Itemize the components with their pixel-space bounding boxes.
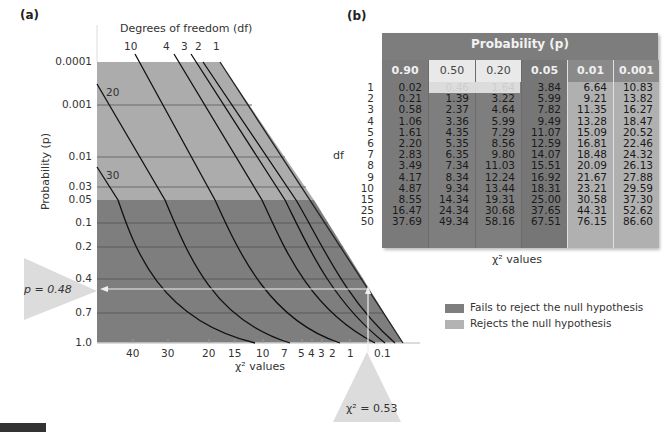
- table-x-label: χ² values: [492, 253, 542, 266]
- col-values: 1.64 3.22 4.64 5.99 7.29 8.56 9.80 11.03…: [476, 82, 521, 228]
- col-header: 0.01: [568, 60, 613, 82]
- y-axis-label: Probability (p): [39, 117, 52, 227]
- x-tick: 30: [161, 347, 174, 359]
- x-tick: 0.1: [374, 347, 391, 359]
- y-tick: 0.001: [32, 98, 92, 110]
- df-label-30: 30: [106, 169, 119, 181]
- x-tick: 4: [308, 347, 315, 359]
- x-axis-label: χ² values: [235, 360, 285, 373]
- chi-marker-label: χ² = 0.53: [346, 402, 397, 415]
- legend-swatch-fail: [445, 304, 464, 313]
- df-row-header: df: [333, 149, 344, 162]
- row-labels: 1 2 3 4 5 6 7 8 9 10 15 25 50: [352, 82, 374, 228]
- col-header: 0.05: [522, 60, 567, 82]
- col-header: 0.90: [382, 60, 428, 82]
- y-tick: 1.0: [32, 336, 92, 348]
- y-tick: 0.0001: [32, 55, 92, 67]
- figure-tab: [0, 423, 46, 432]
- col-header: 0.20: [476, 60, 521, 82]
- x-tick: 20: [202, 347, 215, 359]
- col-header: 0.001: [614, 60, 659, 82]
- df-label-20: 20: [106, 86, 119, 98]
- x-tick: 10: [256, 347, 269, 359]
- col-values: 3.84 5.99 7.82 9.49 11.07 12.59 14.07 15…: [522, 82, 567, 228]
- legend-fail: Fails to reject the null hypothesis: [445, 301, 643, 313]
- col-values: 10.83 13.82 16.27 18.47 20.52 22.46 24.3…: [614, 82, 659, 228]
- p-marker-label: p = 0.48: [24, 283, 72, 296]
- df-label-4: 4: [163, 40, 170, 52]
- x-tick: 7: [281, 347, 288, 359]
- y-tick: 0.7: [32, 306, 92, 318]
- legend-reject: Rejects the null hypothesis: [445, 317, 611, 329]
- df-label-1: 1: [213, 40, 220, 52]
- x-tick: 1: [347, 347, 354, 359]
- df-label-3: 3: [181, 40, 188, 52]
- col-values: 6.64 9.21 11.35 13.28 15.09 16.81 18.48 …: [568, 82, 613, 228]
- df-label-10: 10: [124, 40, 137, 52]
- y-tick: 0.2: [32, 240, 92, 252]
- col-values: 0.46 1.39 2.37 3.36 4.35 5.35 6.35 7.34 …: [429, 82, 475, 228]
- x-tick: 2: [329, 347, 336, 359]
- x-tick: 40: [126, 347, 139, 359]
- x-tick: 3: [318, 347, 325, 359]
- legend-swatch-reject: [445, 320, 464, 329]
- col-values: 0.02 0.21 0.58 1.06 1.61 2.20 2.83 3.49 …: [382, 82, 428, 228]
- col-header: 0.50: [429, 60, 475, 82]
- x-tick: 5: [298, 347, 305, 359]
- x-tick: 15: [228, 347, 241, 359]
- table-title: Probability (p): [382, 37, 658, 51]
- chi-square-table: Probability (p) 0.90 0.02 0.21 0.58 1.06…: [382, 33, 658, 248]
- df-label-2: 2: [195, 40, 202, 52]
